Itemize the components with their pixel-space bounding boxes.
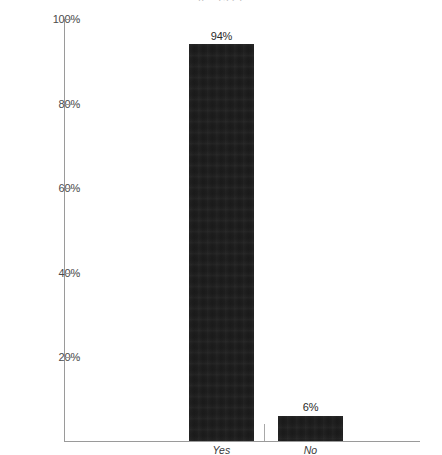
y-tick-mark-100 — [65, 19, 79, 20]
y-axis-line — [64, 19, 65, 442]
bar-no[interactable] — [278, 416, 343, 441]
y-tick-mark-40 — [65, 273, 79, 274]
y-tick-mark-80 — [65, 104, 79, 105]
category-label-no: No — [278, 444, 343, 455]
y-tick-mark-60 — [65, 188, 79, 189]
chart-caption: n = 1,221 — [0, 0, 442, 1]
bar-yes[interactable] — [189, 44, 254, 441]
category-separator-tick — [264, 424, 265, 441]
bar-chart: n = 1,221 100% 80% 60% 40% 20% 94% Yes 6… — [0, 0, 442, 455]
bar-value-yes: 94% — [189, 30, 254, 42]
category-label-yes: Yes — [189, 444, 254, 455]
x-axis-line — [64, 441, 420, 442]
y-tick-mark-20 — [65, 357, 79, 358]
bar-value-no: 6% — [278, 401, 343, 413]
